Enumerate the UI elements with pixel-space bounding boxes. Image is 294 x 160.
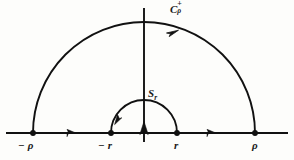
node-neg-rho <box>30 130 36 136</box>
arrow-right-segment-right <box>207 129 216 136</box>
contour-diagram: C+ρ Sr − ρ − r r ρ <box>0 0 294 160</box>
label-large-semicircle-subscript: ρ <box>177 6 181 15</box>
node-pos-rho <box>252 130 258 136</box>
node-neg-r <box>108 130 114 136</box>
axis-label-pos-r: r <box>174 139 178 151</box>
contour-plot-canvas <box>0 0 294 160</box>
arrow-large-arc <box>167 30 179 36</box>
arrow-left-segment-right <box>67 129 76 136</box>
axis-label-pos-rho: ρ <box>252 139 258 151</box>
label-small-semicircle-subscript: r <box>154 93 157 102</box>
axis-label-neg-r: − r <box>98 139 112 151</box>
label-large-semicircle: C+ρ <box>170 2 182 15</box>
axis-label-neg-rho: − ρ <box>18 139 34 151</box>
label-large-semicircle-scripts: +ρ <box>177 2 182 13</box>
label-small-semicircle: Sr <box>148 87 157 102</box>
node-pos-r <box>174 130 180 136</box>
